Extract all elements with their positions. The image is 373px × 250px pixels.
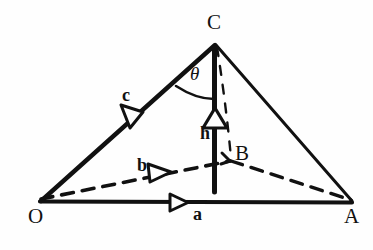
- edge-OA: [40, 202, 352, 203]
- vertex-label-C: C: [207, 12, 221, 33]
- vector-label-b: b: [137, 156, 147, 174]
- vector-b-arrowhead: [148, 164, 171, 182]
- vertex-label-B: B: [235, 143, 249, 164]
- geometry-figure: O A C B a b c h θ: [0, 0, 373, 250]
- angle-theta-arc: [176, 86, 214, 99]
- figure-canvas: [0, 0, 373, 250]
- point-B-tick2: [221, 161, 230, 164]
- point-B-tick: [222, 153, 230, 161]
- edge-CB-projection: [217, 47, 231, 158]
- vertex-label-A: A: [344, 206, 359, 227]
- vertex-label-O: O: [28, 206, 43, 227]
- vector-label-c: c: [122, 86, 130, 104]
- vector-label-h: h: [200, 124, 210, 142]
- angle-label-theta: θ: [190, 64, 199, 83]
- edge-OB: [41, 161, 230, 199]
- vector-label-a: a: [193, 205, 202, 223]
- vector-a-arrowhead: [170, 194, 188, 211]
